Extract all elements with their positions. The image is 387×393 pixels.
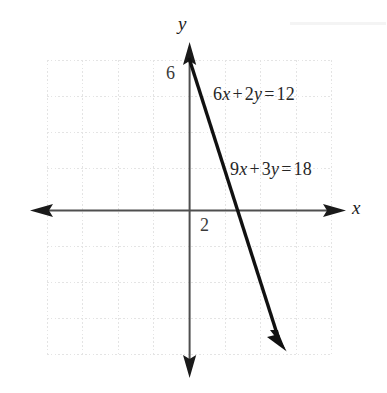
equation-label-1: 6x+2y=12 — [213, 85, 295, 103]
eq2-plus-sign: + — [247, 159, 261, 179]
line-layer — [0, 0, 387, 393]
graph-figure: y x 6 2 6x+2y=12 9x+3y=18 — [0, 0, 387, 393]
eq2-equals-sign: = — [279, 159, 293, 179]
eq1-coef-b: 2 — [245, 84, 254, 104]
eq2-var-y: y — [271, 159, 279, 179]
eq1-plus-sign: + — [230, 84, 244, 104]
eq1-var-y: y — [254, 84, 262, 104]
x-intercept-tick-label: 2 — [200, 216, 209, 234]
eq1-coef-a: 6 — [213, 84, 222, 104]
eq2-constant: 18 — [294, 159, 312, 179]
eq1-constant: 12 — [277, 84, 295, 104]
x-axis-label: x — [352, 198, 360, 217]
eq1-equals-sign: = — [262, 84, 276, 104]
eq2-coef-b: 3 — [262, 159, 271, 179]
y-axis-label: y — [178, 14, 186, 33]
eq2-coef-a: 9 — [230, 159, 239, 179]
y-intercept-tick-label: 6 — [166, 64, 175, 82]
equation-label-2: 9x+3y=18 — [230, 160, 312, 178]
